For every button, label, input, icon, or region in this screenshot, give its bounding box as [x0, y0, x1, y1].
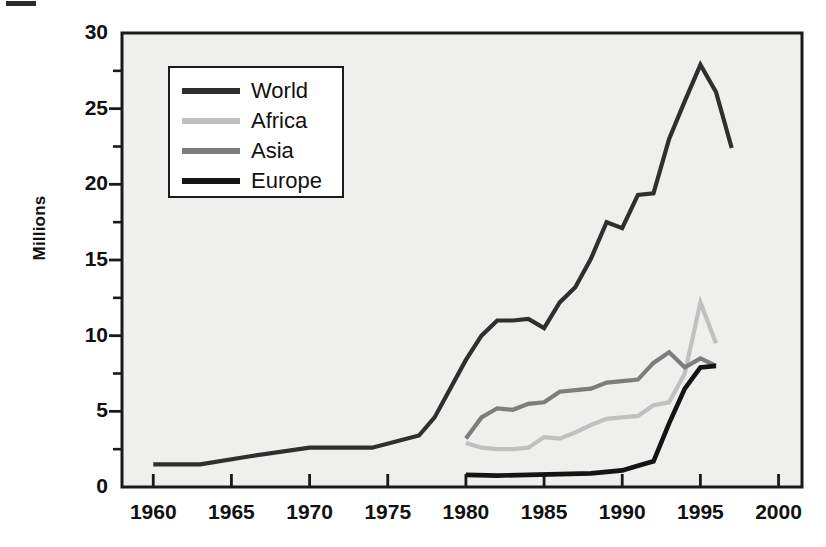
legend-entry-world: World	[170, 76, 342, 106]
legend-entry-africa: Africa	[170, 106, 342, 136]
legend-entry-europe: Europe	[170, 166, 342, 196]
chart-figure: Millions 051015202530 196019651970197519…	[0, 0, 826, 547]
legend-entry-label: World	[251, 80, 308, 102]
plot-canvas	[0, 0, 826, 547]
legend-entry-label: Asia	[251, 140, 294, 162]
chart-legend: WorldAfricaAsiaEurope	[168, 66, 344, 198]
legend-entry-label: Europe	[251, 170, 322, 192]
legend-entry-label: Africa	[251, 110, 307, 132]
legend-entry-asia: Asia	[170, 136, 342, 166]
legend-line-swatch-icon	[182, 178, 240, 184]
legend-line-swatch-icon	[182, 88, 240, 94]
legend-line-swatch-icon	[182, 148, 240, 154]
legend-line-swatch-icon	[182, 118, 240, 124]
